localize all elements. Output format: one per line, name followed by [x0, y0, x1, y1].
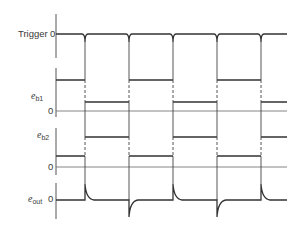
eb1-label: eb1 — [31, 90, 43, 102]
trigger-label: Trigger — [18, 28, 48, 39]
trigger-zero-label: 0 — [50, 28, 55, 39]
eb2-label: eb2 — [37, 129, 49, 141]
eout-zero-label: 0 — [48, 193, 53, 204]
eb2-zero-label: 0 — [48, 161, 53, 172]
waveform-diagram: Trigger 0 eb1 0 eb2 0 eout 0 — [0, 0, 304, 227]
eb1-waveform — [56, 80, 287, 102]
eout-label: eout — [28, 193, 42, 205]
eout-waveform — [56, 184, 287, 217]
eb1-trace: eb1 0 — [31, 68, 287, 117]
eout-trace: eout 0 — [28, 183, 287, 219]
trigger-waveform — [56, 34, 287, 42]
trigger-trace: Trigger 0 — [18, 14, 287, 58]
eb2-waveform — [56, 137, 287, 156]
eb2-trace: eb2 0 — [37, 128, 287, 175]
timing-guides — [85, 42, 261, 200]
eb1-zero-label: 0 — [48, 105, 53, 116]
